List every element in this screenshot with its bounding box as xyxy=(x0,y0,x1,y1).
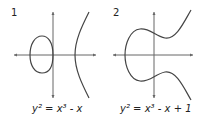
elliptic-curve-plot-1 xyxy=(0,0,100,120)
elliptic-curve-plot-2 xyxy=(100,0,203,120)
panel-1: 1 y² = x³ - x xyxy=(0,0,100,120)
equation-label: y² = x³ - x xyxy=(32,103,82,114)
panel-2: 2 y² = x³ - x + 1 xyxy=(100,0,203,120)
equation-label: y² = x³ - x + 1 xyxy=(120,103,192,114)
